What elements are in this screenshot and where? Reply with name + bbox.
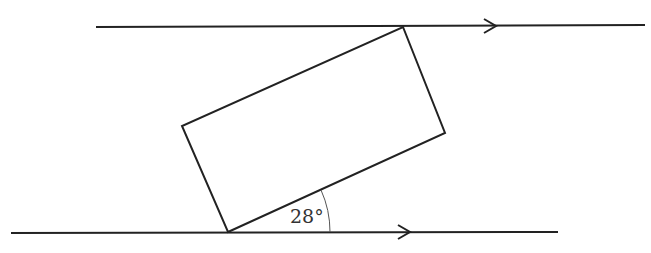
- diagram-svg: [0, 0, 651, 253]
- angle-label: 28°: [290, 205, 324, 227]
- diagram-canvas: 28°: [0, 0, 651, 253]
- top-parallel-line: [96, 25, 645, 27]
- bottom-parallel-line: [11, 232, 558, 233]
- tilted-rectangle: [182, 27, 445, 232]
